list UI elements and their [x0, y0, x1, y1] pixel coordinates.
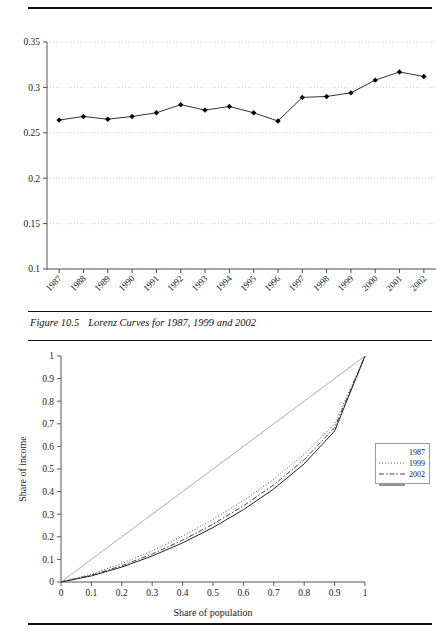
legend-label: 1999 [409, 458, 425, 469]
y-tick-label: 1 [49, 351, 54, 361]
data-marker [105, 116, 110, 121]
data-marker [397, 69, 402, 74]
y-tick-label: 0.25 [23, 128, 40, 138]
legend-label: 2002 [409, 469, 425, 480]
legend-label: 1987 [409, 447, 425, 458]
y-axis-title: Share of income [17, 436, 28, 502]
figure-number: Figure 10.5 [30, 317, 79, 328]
y-tick-label: 0.1 [42, 555, 54, 565]
x-tick-label: 0.6 [237, 588, 249, 598]
legend-key-2002 [379, 474, 405, 475]
figure-page: 0.10.150.20.250.30.351987198819891990199… [0, 0, 444, 632]
x-tick-label: 1991 [141, 273, 161, 293]
x-tick-label: 1989 [92, 273, 112, 293]
x-axis-title: Share of population [174, 607, 253, 618]
x-tick-label: 1995 [238, 273, 258, 293]
y-tick-label: 0.8 [42, 397, 54, 407]
data-marker [178, 102, 183, 107]
legend-item: 1987 [379, 447, 425, 458]
y-tick-label: 0.2 [42, 532, 54, 542]
y-tick-label: 0.35 [23, 37, 40, 47]
legend-key-1987 [379, 452, 405, 453]
x-tick-label: 0.1 [85, 588, 97, 598]
x-tick-label: 2001 [384, 273, 404, 293]
x-tick-label: 0.4 [177, 588, 189, 598]
x-tick-label: 1994 [214, 273, 234, 293]
x-tick-label: 0.3 [146, 588, 158, 598]
x-tick-label: 1997 [287, 273, 307, 293]
y-tick-label: 0.1 [28, 264, 40, 274]
y-tick-label: 0 [49, 577, 54, 587]
data-marker [251, 110, 256, 115]
chart-legend: 198719992002 [375, 443, 430, 484]
data-marker [373, 77, 378, 82]
x-tick-label: 0.7 [268, 588, 280, 598]
x-tick-label: 2002 [408, 273, 428, 293]
y-tick-label: 0.7 [42, 419, 54, 429]
x-tick-label: 0.2 [116, 588, 128, 598]
legend-key-1999 [379, 463, 405, 464]
data-marker [81, 114, 86, 119]
y-tick-label: 0.5 [42, 464, 54, 474]
y-tick-label: 0.9 [42, 374, 54, 384]
y-tick-label: 0.15 [23, 219, 40, 229]
gini-trend-chart: 0.10.150.20.250.30.351987198819891990199… [0, 0, 444, 300]
x-tick-label: 1993 [190, 273, 210, 293]
data-marker [348, 90, 353, 95]
y-tick-label: 0.4 [42, 487, 54, 497]
caption-top-rule [28, 311, 432, 312]
x-tick-label: 0.9 [329, 588, 341, 598]
data-marker [421, 74, 426, 79]
x-tick-label: 0.5 [207, 588, 219, 598]
y-tick-label: 0.6 [42, 442, 54, 452]
x-tick-label: 2000 [360, 273, 380, 293]
gini-chart-canvas: 0.10.150.20.250.30.351987198819891990199… [0, 0, 444, 300]
x-tick-label: 1990 [117, 273, 137, 293]
x-tick-label: 1992 [165, 273, 185, 293]
lorenz-chart-canvas: 00.10.20.30.40.50.60.70.80.9100.10.20.30… [0, 342, 444, 627]
x-tick-label: 0 [59, 588, 64, 598]
lorenz-curves-chart: 00.10.20.30.40.50.60.70.80.9100.10.20.30… [0, 342, 444, 627]
y-tick-label: 0.3 [28, 83, 40, 93]
x-tick-label: 1998 [311, 273, 331, 293]
data-marker [154, 110, 159, 115]
series-equality-line [61, 356, 365, 582]
data-marker [56, 117, 61, 122]
x-tick-label: 1987 [44, 273, 64, 293]
page-bottom-rule [28, 623, 432, 625]
data-line [59, 72, 424, 121]
y-tick-label: 0.2 [28, 174, 40, 184]
x-tick-label: 0.8 [298, 588, 310, 598]
x-tick-label: 1996 [263, 273, 283, 293]
x-tick-label: 1988 [68, 273, 88, 293]
x-tick-label: 1 [363, 588, 368, 598]
y-tick-label: 0.3 [42, 510, 54, 520]
data-marker [324, 94, 329, 99]
data-marker [202, 107, 207, 112]
x-tick-label: 1999 [336, 273, 356, 293]
figure-caption: Figure 10.5Lorenz Curves for 1987, 1999 … [30, 317, 256, 328]
data-marker [129, 114, 134, 119]
data-marker [227, 104, 232, 109]
figure-caption-text: Lorenz Curves for 1987, 1999 and 2002 [88, 317, 256, 328]
